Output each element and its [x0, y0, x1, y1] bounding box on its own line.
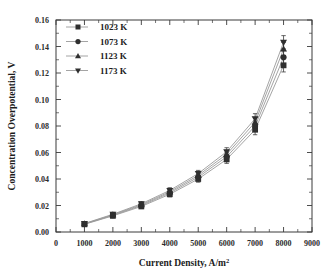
- x-tick-label: 9000: [304, 239, 320, 248]
- data-point-square: [76, 25, 81, 30]
- y-axis-title: Concentration Overpotential, V: [7, 61, 17, 190]
- y-tick-label: 0.14: [35, 43, 49, 52]
- y-tick-label: 0.06: [35, 149, 49, 158]
- y-tick-label: 0.16: [35, 16, 49, 25]
- x-axis-title: Current Density, A/m2: [139, 257, 229, 269]
- x-tick-label: 0: [54, 239, 58, 248]
- y-tick-label: 0.04: [35, 175, 49, 184]
- legend-label-1073-k: 1073 K: [100, 37, 127, 47]
- x-tick-label: 2000: [105, 239, 121, 248]
- x-tick-label: 3000: [133, 239, 149, 248]
- chart-background: [0, 0, 328, 277]
- legend-label-1023-k: 1023 K: [100, 22, 127, 32]
- legend-label-1173-k: 1173 K: [100, 66, 127, 76]
- y-tick-label: 0.10: [35, 96, 49, 105]
- data-point-circle: [281, 54, 287, 60]
- x-tick-label: 6000: [219, 239, 235, 248]
- legend-label-1123-k: 1123 K: [100, 51, 127, 61]
- x-tick-label: 7000: [247, 239, 263, 248]
- x-tick-label: 4000: [162, 239, 178, 248]
- y-tick-label: 0.02: [35, 202, 49, 211]
- x-tick-label: 1000: [76, 239, 92, 248]
- concentration-overpotential-chart: 0.000.020.040.060.080.100.120.140.16 010…: [0, 0, 328, 277]
- data-point-circle: [75, 39, 80, 44]
- y-tick-label: 0.12: [35, 69, 49, 78]
- data-point-square: [281, 62, 287, 68]
- chart-figure: 0.000.020.040.060.080.100.120.140.16 010…: [0, 0, 328, 277]
- x-tick-label: 8000: [276, 239, 292, 248]
- x-axis-title-superscript: 2: [226, 257, 229, 264]
- x-tick-label: 5000: [190, 239, 206, 248]
- y-tick-label: 0.00: [35, 228, 49, 237]
- y-tick-label: 0.08: [35, 122, 49, 131]
